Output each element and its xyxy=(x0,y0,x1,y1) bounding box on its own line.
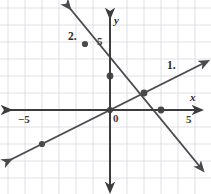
line-2-label: 2. xyxy=(68,31,77,43)
origin-label: 0 xyxy=(113,113,119,124)
x-tick-label-5: 5 xyxy=(186,114,192,125)
x-axis-label: x xyxy=(190,92,196,103)
coordinate-plane-figure: −5 5 5 0 x y 1. 2. xyxy=(0,0,211,194)
y-tick-label-5: 5 xyxy=(97,36,103,47)
line-1-label: 1. xyxy=(167,60,176,72)
labels-layer: −5 5 5 0 x y 1. 2. xyxy=(0,0,211,194)
x-tick-label-neg5: −5 xyxy=(18,114,30,125)
y-axis-label: y xyxy=(114,15,119,26)
